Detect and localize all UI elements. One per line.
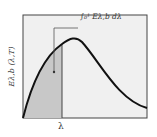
x-axis-label: λ [58, 121, 64, 131]
annotation-pointer [53, 71, 55, 73]
planck-curve-diagram [0, 0, 157, 137]
integral-annotation: ∫₀¹ Eλ,b dλ [80, 12, 122, 21]
y-axis-label: Eλ,b (λ,T) [7, 42, 16, 92]
